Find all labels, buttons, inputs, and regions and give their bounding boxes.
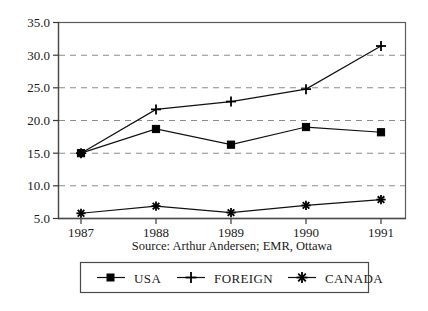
y-tick-label-15: 15.0 bbox=[27, 146, 50, 161]
y-tick-label-35: 35.0 bbox=[27, 15, 50, 30]
asterisk-marker-icon bbox=[151, 201, 160, 210]
asterisk-marker-icon bbox=[376, 195, 385, 204]
plus-marker-icon bbox=[301, 84, 311, 94]
y-tick-label-20: 20.0 bbox=[27, 113, 50, 128]
x-tick-label-1991: 1991 bbox=[368, 225, 394, 240]
y-tick-label-25: 25.0 bbox=[27, 80, 50, 95]
asterisk-marker-icon bbox=[76, 209, 85, 218]
x-tick-label-1988: 1988 bbox=[143, 225, 169, 240]
y-tick-label-10: 10.0 bbox=[27, 178, 50, 193]
plot-frame bbox=[59, 23, 406, 219]
plus-marker-icon bbox=[226, 97, 236, 107]
source-note: Source: Arthur Andersen; EMR, Ottawa bbox=[132, 239, 333, 253]
square-marker-icon bbox=[152, 125, 159, 132]
square-marker-icon bbox=[302, 123, 309, 130]
plus-marker-icon bbox=[151, 104, 161, 114]
asterisk-marker-icon bbox=[226, 208, 235, 217]
x-tick-label-1987: 1987 bbox=[68, 225, 95, 240]
line-chart-canvas: 35.0 30.0 25.0 20.0 15.0 10.0 5.0 1987 1… bbox=[0, 0, 428, 311]
series-line-usa bbox=[81, 127, 381, 153]
square-marker-icon bbox=[377, 129, 384, 136]
plus-marker-icon bbox=[376, 41, 386, 51]
x-tick-label-1990: 1990 bbox=[293, 225, 319, 240]
y-tick-label-5: 5.0 bbox=[34, 211, 50, 226]
y-tick-label-30: 30.0 bbox=[27, 48, 50, 63]
series-markers-canada bbox=[76, 195, 385, 218]
x-tick-label-1989: 1989 bbox=[218, 225, 244, 240]
chart-figure: 35.0 30.0 25.0 20.0 15.0 10.0 5.0 1987 1… bbox=[0, 0, 428, 311]
legend-label-usa: USA bbox=[134, 271, 161, 286]
square-marker-icon bbox=[227, 141, 234, 148]
square-marker-icon bbox=[107, 274, 114, 281]
asterisk-marker-icon bbox=[301, 201, 310, 210]
x-tick-marks bbox=[81, 219, 381, 224]
chart-legend: USA FOREIGN CANADA bbox=[81, 263, 384, 293]
legend-label-foreign: FOREIGN bbox=[214, 271, 273, 286]
gridlines bbox=[59, 55, 405, 186]
legend-label-canada: CANADA bbox=[325, 271, 383, 286]
